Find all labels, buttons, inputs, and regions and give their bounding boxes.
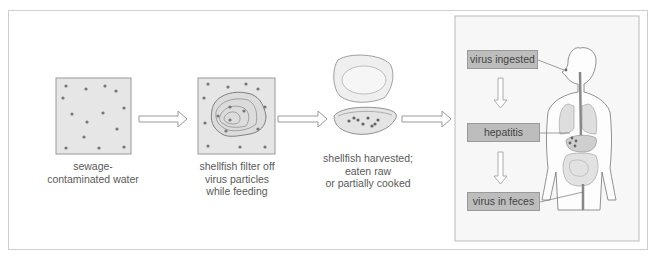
label-hepatitis: hepatitis — [467, 123, 540, 142]
caption-line: sewage- — [38, 160, 148, 173]
step-2-caption: shellfish filter off virus particles whi… — [180, 160, 294, 198]
diagram-graphics — [0, 0, 657, 258]
contaminated-water-box — [56, 78, 131, 154]
shellfish-filter-box — [198, 78, 275, 154]
caption-line: while feeding — [180, 185, 294, 198]
label-virus-in-feces: virus in feces — [467, 192, 540, 211]
step-1-caption: sewage- contaminated water — [38, 160, 148, 185]
caption-line: eaten raw — [308, 165, 428, 178]
step-3-caption: shellfish harvested; eaten raw or partia… — [308, 152, 428, 190]
arrow-2-icon — [278, 111, 327, 127]
arrow-3-icon — [402, 111, 451, 127]
caption-line: shellfish filter off — [180, 160, 294, 173]
caption-line: contaminated water — [38, 173, 148, 186]
opened-shellfish-icon — [334, 55, 397, 134]
arrow-1-icon — [139, 111, 187, 127]
caption-line: virus particles — [180, 173, 294, 186]
caption-line: or partially cooked — [308, 177, 428, 190]
caption-line: shellfish harvested; — [308, 152, 428, 165]
label-virus-ingested: virus ingested — [467, 50, 538, 69]
